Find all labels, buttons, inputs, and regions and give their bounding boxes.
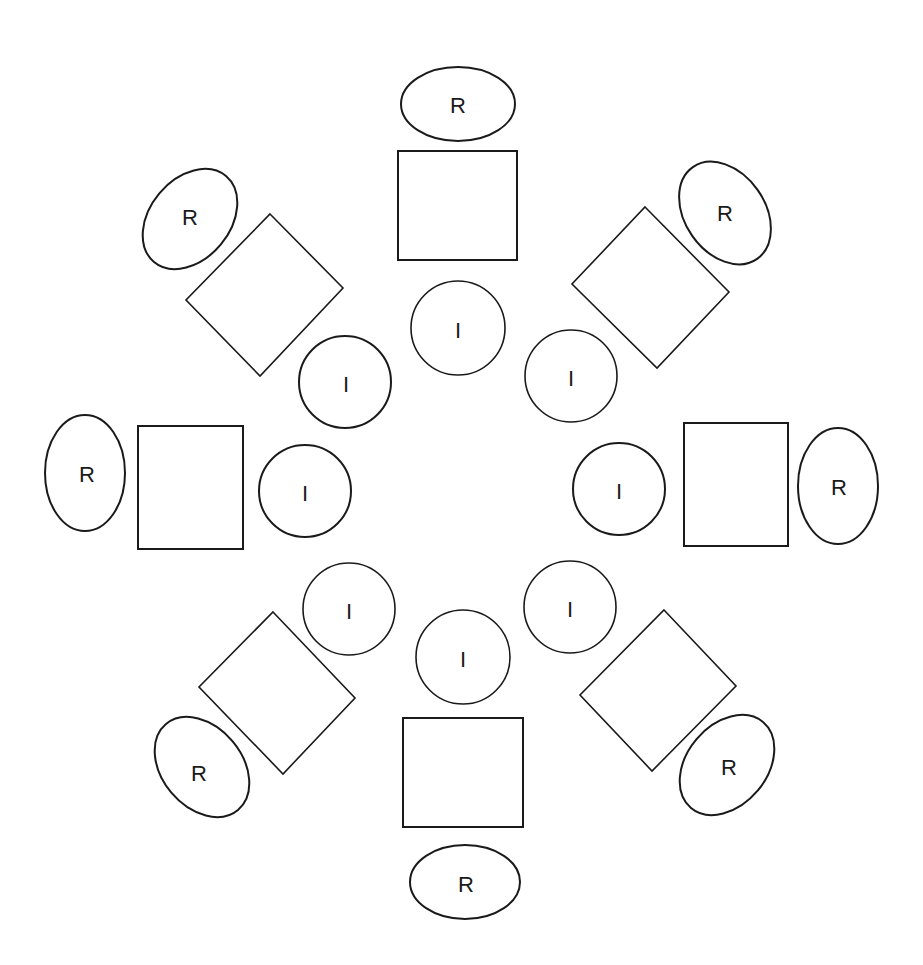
outer-label-right: R	[831, 475, 847, 500]
inner-label-top-right: I	[568, 366, 574, 391]
inner-label-left: I	[302, 481, 308, 506]
group-bottom-left: I R	[135, 563, 395, 836]
outer-label-top: R	[450, 93, 466, 118]
group-bottom: I R	[403, 610, 523, 919]
group-top-right: R I	[525, 144, 790, 422]
block-right	[684, 423, 788, 546]
outer-label-top-right: R	[717, 201, 733, 226]
inner-label-bottom-left: I	[346, 599, 352, 624]
inner-label-bottom-right: I	[567, 597, 573, 622]
outer-label-bottom-right: R	[721, 755, 737, 780]
group-bottom-right: I R	[524, 561, 794, 834]
outer-label-top-left: R	[182, 205, 198, 230]
inner-label-top: I	[455, 318, 461, 343]
block-left	[138, 426, 243, 549]
inner-label-top-left: I	[343, 372, 349, 397]
outer-label-bottom: R	[458, 872, 474, 897]
outer-label-bottom-left: R	[191, 761, 207, 786]
group-top-left: R I	[123, 150, 391, 428]
group-top: R I	[398, 67, 517, 375]
inner-label-right: I	[616, 479, 622, 504]
radial-diagram: R I R I I R I R I R I	[0, 0, 923, 965]
outer-label-left: R	[79, 462, 95, 487]
group-right: I R	[573, 423, 878, 546]
block-bottom	[403, 718, 523, 827]
inner-label-bottom: I	[460, 647, 466, 672]
group-left: R I	[45, 415, 351, 549]
block-top	[398, 151, 517, 260]
